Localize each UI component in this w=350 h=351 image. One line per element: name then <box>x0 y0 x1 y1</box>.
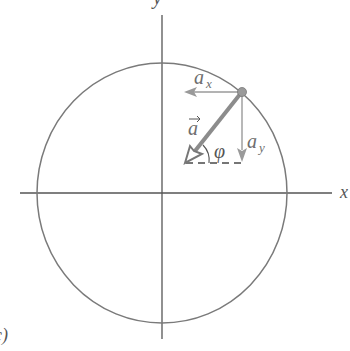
angle-phi-label: φ <box>214 140 225 163</box>
svg-text:x: x <box>205 76 212 91</box>
ay-label: a y <box>247 130 265 155</box>
svg-text:a: a <box>194 66 204 88</box>
y-axis-label: y <box>151 0 162 9</box>
circular-motion-diagram: y x a x a y a <box>0 0 350 351</box>
ay-arrowhead-icon <box>237 148 247 162</box>
acceleration-vector-label: a <box>188 116 200 139</box>
particle-dot <box>238 88 247 97</box>
svg-text:a: a <box>188 117 198 139</box>
svg-text:a: a <box>247 130 257 152</box>
ax-label: a x <box>194 66 212 91</box>
svg-text:y: y <box>257 140 265 155</box>
panel-label: c) <box>0 325 8 346</box>
x-axis-label: x <box>339 182 348 202</box>
